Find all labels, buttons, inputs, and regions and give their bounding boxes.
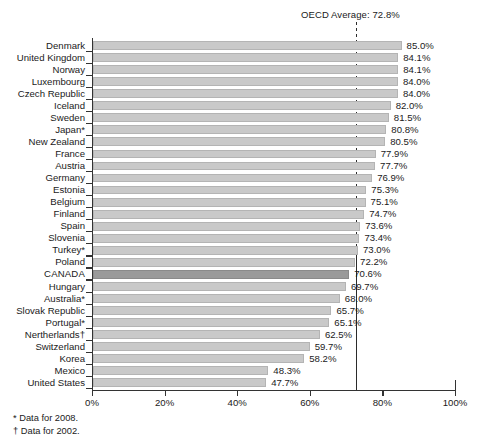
table-row: Sweden81.5% [0, 112, 481, 124]
bar [93, 282, 346, 291]
table-row: Slovenia73.4% [0, 232, 481, 244]
bar [93, 174, 372, 183]
category-label: Mexico [0, 365, 92, 377]
x-axis-tick-mark [310, 391, 311, 396]
bar [93, 222, 360, 231]
table-row: Japan*80.8% [0, 124, 481, 136]
category-label: Finland [0, 208, 92, 220]
bar [93, 318, 329, 327]
bar [93, 342, 310, 351]
bar [93, 270, 349, 279]
category-label: Turkey* [0, 244, 92, 256]
category-label: Denmark [0, 40, 92, 52]
category-label: Poland [0, 256, 92, 268]
x-axis-ticks: 0%20%40%60%80%100% [0, 391, 481, 411]
bar-value-label: 80.5% [386, 136, 417, 148]
category-label: Nertherlands† [0, 329, 92, 341]
bar-value-label: 75.3% [367, 184, 398, 196]
category-label: Belgium [0, 196, 92, 208]
table-row: Poland72.2% [0, 256, 481, 268]
x-axis-tick-label: 20% [155, 397, 174, 408]
category-label: Portugal* [0, 317, 92, 329]
bar [93, 210, 364, 219]
bar [93, 53, 398, 62]
bar [93, 65, 398, 74]
bar-value-label: 81.5% [390, 112, 421, 124]
x-axis-tick-label: 60% [300, 397, 319, 408]
table-row: Switzerland59.7% [0, 341, 481, 353]
footnote-asterisk: * Data for 2008. [13, 412, 80, 425]
table-row: Finland74.7% [0, 208, 481, 220]
bar-value-label: 84.0% [399, 76, 430, 88]
category-label: Estonia [0, 184, 92, 196]
bar-value-label: 70.6% [350, 268, 381, 280]
x-axis-tick-label: 80% [373, 397, 392, 408]
category-label: Luxembourg [0, 76, 92, 88]
category-label: Sweden [0, 112, 92, 124]
category-label: Switzerland [0, 341, 92, 353]
bar [93, 330, 320, 339]
bar [93, 234, 359, 243]
bar-value-label: 82.0% [392, 100, 423, 112]
bar [93, 137, 385, 146]
category-label: Slovak Republic [0, 305, 92, 317]
x-axis-tick-label: 100% [443, 397, 468, 408]
bar-value-label: 77.9% [377, 148, 408, 160]
bar [93, 101, 391, 110]
footnote-dagger: † Data for 2002. [13, 425, 80, 438]
table-row: United Kingdom84.1% [0, 52, 481, 64]
x-axis-tick-label: 40% [228, 397, 247, 408]
bar-value-label: 73.0% [359, 244, 390, 256]
bar-value-label: 74.7% [365, 208, 396, 220]
table-row: Australia*68.0% [0, 293, 481, 305]
bar [93, 41, 402, 50]
x-axis-tick-mark [92, 391, 93, 396]
category-label: Iceland [0, 100, 92, 112]
bar [93, 354, 304, 363]
table-row: Portugal*65.1% [0, 317, 481, 329]
bar-chart: OECD Average: 72.8% Denmark85.0%United K… [0, 0, 481, 447]
category-label: Hungary [0, 281, 92, 293]
bar [93, 366, 268, 375]
bar-value-label: 84.1% [399, 52, 430, 64]
category-label: Germany [0, 172, 92, 184]
table-row: New Zealand80.5% [0, 136, 481, 148]
bar [93, 162, 375, 171]
x-axis-tick-mark [165, 391, 166, 396]
bar-value-label: 68.0% [341, 293, 372, 305]
table-row: Austria77.7% [0, 160, 481, 172]
bar-value-label: 69.7% [347, 281, 378, 293]
table-row: Germany76.9% [0, 172, 481, 184]
bar-value-label: 73.6% [361, 220, 392, 232]
bar [93, 113, 389, 122]
table-row: Denmark85.0% [0, 40, 481, 52]
category-label: Japan* [0, 124, 92, 136]
bar-value-label: 73.4% [360, 232, 391, 244]
category-label: Czech Republic [0, 88, 92, 100]
bar [93, 198, 366, 207]
bar [93, 77, 398, 86]
table-row: Czech Republic84.0% [0, 88, 481, 100]
category-label: CANADA [0, 268, 92, 280]
bar-value-label: 47.7% [267, 377, 298, 389]
x-axis-tick-mark [455, 391, 456, 396]
category-label: Australia* [0, 293, 92, 305]
bar-value-label: 48.3% [269, 365, 300, 377]
bar [93, 125, 386, 134]
oecd-average-annotation: OECD Average: 72.8% [301, 9, 400, 20]
table-row: Iceland82.0% [0, 100, 481, 112]
bar [93, 150, 376, 159]
category-label: Slovenia [0, 232, 92, 244]
x-axis-tick-label: 0% [85, 397, 99, 408]
table-row: Mexico48.3% [0, 365, 481, 377]
table-row: Estonia75.3% [0, 184, 481, 196]
y-axis-tick [86, 388, 92, 389]
table-row: Norway84.1% [0, 64, 481, 76]
table-row: Belgium75.1% [0, 196, 481, 208]
bar [93, 258, 355, 267]
bar [93, 306, 331, 315]
category-label: Korea [0, 353, 92, 365]
category-label: Austria [0, 160, 92, 172]
table-row: Turkey*73.0% [0, 244, 481, 256]
bar-value-label: 77.7% [376, 160, 407, 172]
